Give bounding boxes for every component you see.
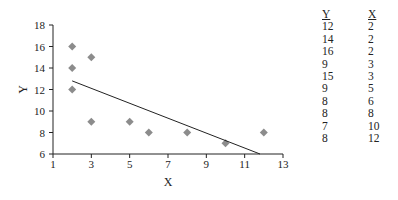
data-table: Y X 12214216293153958688710812: [322, 8, 398, 144]
data-point-diamond: [126, 118, 134, 126]
x-tick-label: 1: [50, 158, 56, 170]
cell-x: 8: [368, 107, 398, 119]
y-axis-title: Y: [16, 85, 30, 94]
x-axis-title: X: [164, 175, 173, 189]
table-row: 812: [322, 132, 398, 144]
x-tick-label: 13: [278, 158, 290, 170]
cell-x: 12: [368, 132, 398, 144]
table-row: 93: [322, 58, 398, 70]
x-tick-label: 11: [239, 158, 250, 170]
cell-y: 8: [322, 107, 368, 119]
data-point-diamond: [183, 129, 191, 137]
cell-x: 10: [368, 120, 398, 132]
data-point-diamond: [145, 129, 153, 137]
y-tick-label: 12: [34, 84, 45, 96]
y-tick-label: 6: [40, 148, 46, 160]
table-header-row: Y X: [322, 8, 398, 20]
cell-x: 6: [368, 95, 398, 107]
data-point-diamond: [260, 129, 268, 137]
cell-y: 9: [322, 82, 368, 94]
table-row: 153: [322, 70, 398, 82]
data-point-diamond: [68, 64, 76, 72]
cell-y: 16: [322, 45, 368, 57]
cell-y: 9: [322, 58, 368, 70]
column-header-x: X: [368, 8, 398, 20]
data-point-diamond: [68, 43, 76, 51]
y-tick-label: 18: [34, 19, 46, 31]
cell-x: 3: [368, 70, 398, 82]
column-header-y: Y: [322, 8, 368, 20]
table-row: 162: [322, 45, 398, 57]
cell-x: 3: [368, 58, 398, 70]
table-row: 142: [322, 33, 398, 45]
table-row: 95: [322, 82, 398, 94]
cell-y: 8: [322, 95, 368, 107]
table-row: 122: [322, 20, 398, 32]
cell-x: 2: [368, 33, 398, 45]
cell-x: 2: [368, 20, 398, 32]
cell-x: 2: [368, 45, 398, 57]
table-row: 710: [322, 120, 398, 132]
data-point-diamond: [87, 118, 95, 126]
cell-x: 5: [368, 82, 398, 94]
table-row: 86: [322, 95, 398, 107]
table-row: 88: [322, 107, 398, 119]
cell-y: 8: [322, 132, 368, 144]
x-tick-label: 9: [204, 158, 210, 170]
x-tick-label: 3: [89, 158, 95, 170]
data-point-diamond: [68, 86, 76, 94]
cell-y: 12: [322, 20, 368, 32]
cell-y: 14: [322, 33, 368, 45]
data-point-diamond: [87, 53, 95, 61]
y-tick-label: 14: [34, 62, 46, 74]
x-tick-label: 5: [127, 158, 133, 170]
scatter-chart: 681012141618135791113XY: [0, 0, 300, 200]
cell-y: 15: [322, 70, 368, 82]
y-tick-label: 10: [34, 105, 46, 117]
cell-y: 7: [322, 120, 368, 132]
y-tick-label: 16: [34, 41, 46, 53]
trend-line: [72, 81, 260, 154]
y-tick-label: 8: [40, 127, 46, 139]
table-body: 12214216293153958688710812: [322, 20, 398, 144]
x-tick-label: 7: [165, 158, 171, 170]
